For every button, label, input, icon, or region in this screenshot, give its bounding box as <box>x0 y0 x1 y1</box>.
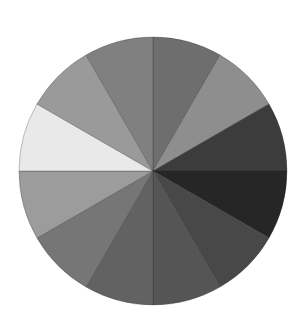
gray-pie-chart <box>0 0 307 336</box>
